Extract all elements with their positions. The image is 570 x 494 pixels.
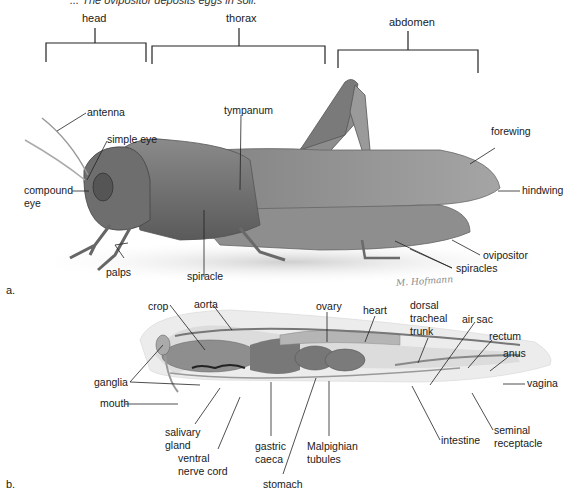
label-compound-eye-line1: compound <box>24 184 73 197</box>
segment-brackets <box>46 28 478 73</box>
label-simple-eye: simple eye <box>107 133 157 146</box>
label-gastric-caeca-2: caeca <box>255 453 283 466</box>
label-ovipositor: ovipositor <box>483 249 528 262</box>
label-dorsal-tracheal-trunk-1: dorsal <box>410 299 439 312</box>
label-salivary-gland-1: salivary <box>165 426 201 439</box>
label-ovary: ovary <box>316 300 342 313</box>
label-dorsal-tracheal-trunk-3: trunk <box>410 325 433 338</box>
label-malpighian-tubules-1: Malpighian <box>307 440 358 453</box>
caption-fragment: ... The ovipositor deposits eggs in soil… <box>70 0 256 6</box>
panel-b-marker: b. <box>6 478 15 490</box>
label-antenna: antenna <box>87 106 125 119</box>
label-anus: anus <box>503 347 526 360</box>
segment-label-thorax: thorax <box>226 12 257 24</box>
label-spiracles: spiracles <box>456 262 497 275</box>
label-forewing: forewing <box>491 125 531 138</box>
label-ganglia: ganglia <box>94 376 128 389</box>
label-gastric-caeca-1: gastric <box>255 440 286 453</box>
label-vagina: vagina <box>527 377 558 390</box>
label-ventral-nerve-cord-1: ventral <box>178 452 210 465</box>
label-stomach: stomach <box>263 478 303 491</box>
label-mouth: mouth <box>100 397 129 410</box>
label-seminal-receptacle-1: seminal <box>494 424 530 437</box>
label-intestine: intestine <box>441 434 480 447</box>
label-ventral-nerve-cord-2: nerve cord <box>178 465 228 478</box>
label-compound-eye-line2: eye <box>24 197 41 210</box>
label-palps: palps <box>106 266 131 279</box>
label-seminal-receptacle-2: receptacle <box>494 437 542 450</box>
label-malpighian-tubules-2: tubules <box>307 453 341 466</box>
label-spiracle: spiracle <box>187 270 223 283</box>
grasshopper-illustration <box>0 0 570 494</box>
segment-label-abdomen: abdomen <box>389 16 435 28</box>
label-rectum: rectum <box>489 330 521 343</box>
segment-label-head: head <box>82 12 106 24</box>
label-tympanum: tympanum <box>224 104 273 117</box>
label-air-sac: air sac <box>462 313 493 326</box>
label-aorta: aorta <box>194 298 218 311</box>
label-hindwing: hindwing <box>522 184 563 197</box>
label-heart: heart <box>363 304 387 317</box>
panel-a-marker: a. <box>6 284 15 296</box>
label-crop: crop <box>148 300 168 313</box>
label-salivary-gland-2: gland <box>165 439 191 452</box>
label-dorsal-tracheal-trunk-2: tracheal <box>410 312 447 325</box>
